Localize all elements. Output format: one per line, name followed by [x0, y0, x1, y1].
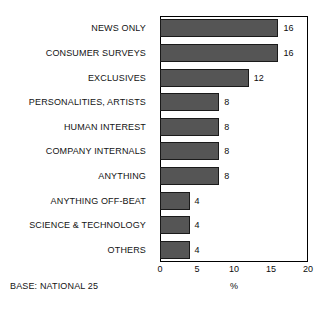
category-label: ANYTHING	[0, 171, 146, 181]
bar-value-label: 12	[254, 69, 264, 87]
bar-value-label: 8	[224, 93, 229, 111]
bar	[160, 44, 278, 62]
bar-value-label: 16	[283, 19, 293, 37]
x-axis-unit-label: %	[160, 281, 308, 291]
bar	[160, 19, 278, 37]
x-tick-label: 10	[229, 264, 239, 275]
x-tick-label: 5	[194, 264, 199, 275]
category-label: SCIENCE & TECHNOLOGY	[0, 220, 146, 230]
bar	[160, 69, 249, 87]
category-label: PERSONALITIES, ARTISTS	[0, 97, 146, 107]
category-label: HUMAN INTEREST	[0, 122, 146, 132]
category-label: ANYTHING OFF-BEAT	[0, 196, 146, 206]
category-label: CONSUMER SURVEYS	[0, 48, 146, 58]
bars-layer: 1616128888444	[160, 16, 308, 262]
bar-value-label: 8	[224, 118, 229, 136]
bar-value-label: 8	[224, 142, 229, 160]
x-tick-label: 0	[157, 264, 162, 275]
base-note: BASE: NATIONAL 25	[10, 281, 98, 291]
category-label: COMPANY INTERNALS	[0, 146, 146, 156]
category-label: EXCLUSIVES	[0, 73, 146, 83]
bar-value-label: 4	[195, 241, 200, 259]
category-label: OTHERS	[0, 245, 146, 255]
bar	[160, 118, 219, 136]
bar-value-label: 16	[283, 44, 293, 62]
bar	[160, 192, 190, 210]
category-label: NEWS ONLY	[0, 23, 146, 33]
bar-value-label: 4	[195, 192, 200, 210]
bar-chart: NEWS ONLYCONSUMER SURVEYSEXCLUSIVESPERSO…	[0, 0, 333, 311]
bar-value-label: 4	[195, 216, 200, 234]
category-axis-labels: NEWS ONLYCONSUMER SURVEYSEXCLUSIVESPERSO…	[0, 16, 152, 262]
x-tick-label: 15	[266, 264, 276, 275]
bar-value-label: 8	[224, 167, 229, 185]
x-axis-ticks: 05101520	[160, 262, 308, 276]
bar	[160, 93, 219, 111]
bar	[160, 167, 219, 185]
bar	[160, 142, 219, 160]
bar	[160, 216, 190, 234]
bar	[160, 241, 190, 259]
x-tick-label: 20	[303, 264, 313, 275]
